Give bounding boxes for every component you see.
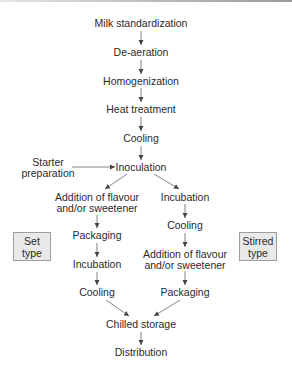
step-heat-treatment: Heat treatment	[106, 104, 175, 115]
stirred-addition-line2: and/or sweetener	[143, 260, 227, 271]
step-milk-standardization: Milk standardization	[95, 18, 188, 29]
stirred-type-box: Stirred type	[239, 232, 277, 261]
stirred-step-addition: Addition of flavour and/or sweetener	[143, 249, 227, 271]
set-type-line2: type	[22, 247, 42, 259]
set-type-line1: Set	[22, 235, 42, 247]
step-de-aeration: De-aeration	[114, 47, 169, 58]
set-step-addition: Addition of flavour and/or sweetener	[55, 192, 139, 214]
set-step-incubation: Incubation	[73, 259, 121, 270]
stirred-step-packaging: Packaging	[160, 287, 209, 298]
step-distribution: Distribution	[115, 347, 168, 358]
starter-line2: preparation	[21, 168, 74, 179]
stirred-step-cooling: Cooling	[167, 220, 203, 231]
starter-preparation: Starter preparation	[21, 157, 74, 179]
step-inoculation: Inoculation	[116, 162, 167, 173]
set-type-box: Set type	[13, 232, 51, 261]
step-chilled-storage: Chilled storage	[106, 319, 176, 330]
stirred-type-line1: Stirred	[243, 235, 274, 247]
stirred-type-line2: type	[243, 247, 274, 259]
set-step-cooling: Cooling	[79, 287, 115, 298]
stirred-step-incubation: Incubation	[161, 192, 209, 203]
step-cooling: Cooling	[123, 133, 159, 144]
step-homogenization: Homogenization	[103, 76, 179, 87]
set-addition-line2: and/or sweetener	[55, 203, 139, 214]
set-step-packaging: Packaging	[72, 230, 121, 241]
